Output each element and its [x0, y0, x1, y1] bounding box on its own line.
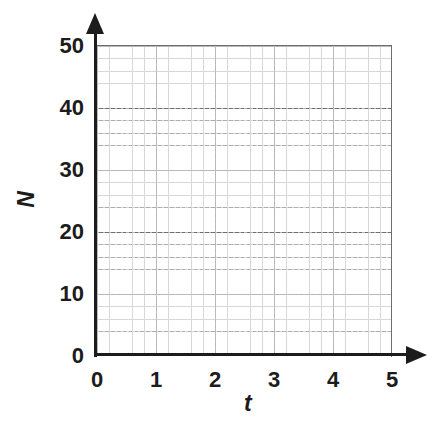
y-axis-line	[94, 30, 97, 357]
coordinate-grid-figure: 0 10 20 30 40 50 0 1 2 3 4 5 N t	[0, 0, 440, 436]
y-tick-label-20: 20	[60, 221, 84, 243]
x-axis-arrow-icon	[406, 346, 427, 364]
y-tick-label-30: 30	[60, 159, 84, 181]
grid-right-border	[391, 46, 392, 357]
y-tick-label-10: 10	[60, 283, 84, 305]
y-axis-tick-labels: 0 10 20 30 40 50	[0, 0, 84, 436]
y-tick-label-50: 50	[60, 35, 84, 57]
grid-top-border	[97, 45, 392, 46]
grid-plot-area	[97, 46, 392, 356]
y-axis-arrow-icon	[86, 13, 104, 34]
y-axis-title: N	[15, 191, 38, 208]
x-tick-label-3: 3	[268, 369, 280, 391]
x-tick-label-0: 0	[91, 369, 103, 391]
x-axis-line	[94, 353, 419, 356]
x-tick-label-4: 4	[327, 369, 339, 391]
y-tick-label-40: 40	[60, 97, 84, 119]
x-tick-label-1: 1	[150, 369, 162, 391]
x-axis-title: t	[244, 392, 252, 415]
x-tick-label-5: 5	[386, 369, 398, 391]
x-tick-label-2: 2	[209, 369, 221, 391]
y-tick-label-0: 0	[72, 345, 84, 367]
